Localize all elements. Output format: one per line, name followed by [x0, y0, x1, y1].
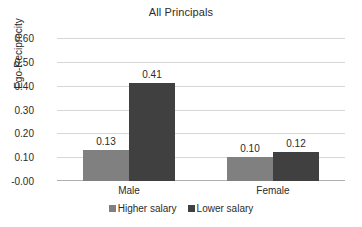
chart-legend: Higher salaryLower salary — [0, 203, 362, 214]
bar — [129, 83, 175, 181]
gridline — [57, 62, 345, 63]
gridline — [57, 86, 345, 87]
bar-value-label: 0.41 — [129, 69, 175, 80]
y-tick-label: 0.40 — [0, 80, 34, 91]
y-tick-label: 0.10 — [0, 152, 34, 163]
plot-area: 0.600.500.400.300.200.10-0.000.130.410.1… — [57, 38, 345, 181]
x-category-label: Female — [201, 185, 345, 196]
bar-value-label: 0.13 — [83, 136, 129, 147]
x-category-label: Male — [57, 185, 201, 196]
bar — [273, 152, 319, 181]
bar-chart: All Principals Ego-Reciprocity 0.600.500… — [0, 0, 362, 227]
bar — [83, 150, 129, 181]
y-tick-label: 0.60 — [0, 33, 34, 44]
legend-item[interactable]: Higher salary — [109, 203, 177, 214]
bar — [227, 157, 273, 181]
bar-value-label: 0.10 — [227, 143, 273, 154]
gridline — [57, 110, 345, 111]
gridline — [57, 133, 345, 134]
y-tick-label: -0.00 — [0, 176, 34, 187]
y-tick-label: 0.30 — [0, 104, 34, 115]
y-tick-label: 0.50 — [0, 56, 34, 67]
y-tick-label: 0.20 — [0, 128, 34, 139]
legend-label: Lower salary — [197, 203, 254, 214]
legend-swatch-icon — [109, 205, 116, 212]
legend-swatch-icon — [188, 205, 195, 212]
legend-label: Higher salary — [118, 203, 177, 214]
gridline — [57, 38, 345, 39]
legend-item[interactable]: Lower salary — [188, 203, 254, 214]
chart-title: All Principals — [0, 6, 362, 18]
bar-value-label: 0.12 — [273, 138, 319, 149]
